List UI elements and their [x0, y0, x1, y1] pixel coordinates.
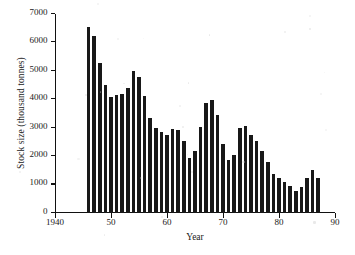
bar: [137, 77, 141, 213]
bar: [182, 141, 186, 213]
bar: [115, 95, 119, 213]
bar: [87, 27, 91, 213]
bar-series: [55, 14, 335, 213]
bar: [232, 155, 236, 213]
bar: [216, 115, 220, 213]
bar: [104, 85, 108, 213]
x-tick-label: 1940: [46, 217, 64, 227]
bar: [148, 118, 152, 213]
x-tick-label: 60: [163, 217, 172, 227]
bar: [92, 36, 96, 213]
bar: [132, 71, 136, 213]
bar: [165, 135, 169, 213]
y-tick-label: 0: [43, 206, 48, 216]
bar: [204, 103, 208, 213]
bar: [255, 141, 259, 213]
bar: [266, 162, 270, 213]
bar: [109, 97, 113, 213]
bar: [98, 63, 102, 213]
bar: [188, 158, 192, 213]
y-axis-title: Stock size (thousand tonnes): [16, 18, 26, 208]
bar: [311, 170, 315, 213]
bar: [294, 191, 298, 213]
bar: [160, 132, 164, 213]
y-tick-label: 2000: [30, 149, 48, 159]
bar: [199, 127, 203, 213]
x-tick-label: 50: [107, 217, 116, 227]
bar: [154, 128, 158, 213]
bar: [300, 187, 304, 213]
chart-figure: Stock size (thousand tonnes) 01000200030…: [0, 0, 355, 255]
bar: [193, 151, 197, 213]
x-tick-label: 90: [331, 217, 340, 227]
x-tick-label: 70: [219, 217, 228, 227]
bar: [288, 186, 292, 213]
y-tick-label: 3000: [30, 121, 48, 131]
x-tick-label: 80: [275, 217, 284, 227]
bar: [283, 182, 287, 213]
bar: [244, 126, 248, 213]
y-tick-label: 1000: [30, 177, 48, 187]
bar: [277, 178, 281, 213]
scan-speckle: [313, 221, 315, 223]
y-tick-label: 5000: [30, 64, 48, 74]
bar: [272, 174, 276, 213]
bar: [120, 94, 124, 213]
bar: [260, 151, 264, 213]
bar: [305, 178, 309, 213]
bar: [176, 130, 180, 213]
y-tick-label: 4000: [30, 92, 48, 102]
bar: [238, 128, 242, 213]
y-tick-label: 7000: [30, 7, 48, 17]
bar: [210, 100, 214, 213]
y-tick-label: 6000: [30, 35, 48, 45]
bar: [227, 160, 231, 213]
bar: [221, 144, 225, 213]
plot-area: 01000200030004000500060007000 1940506070…: [55, 14, 335, 213]
bar: [126, 88, 130, 213]
bar: [316, 178, 320, 213]
scan-speckle: [97, 3, 99, 5]
x-axis-title: Year: [55, 232, 335, 242]
bar: [249, 135, 253, 213]
bar: [171, 129, 175, 213]
bar: [143, 96, 147, 213]
